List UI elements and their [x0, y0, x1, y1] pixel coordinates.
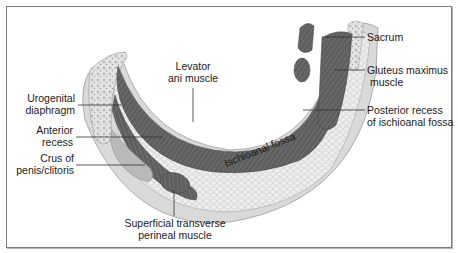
label-posterior-recess: Posterior recess of ischioanal fossa: [367, 104, 453, 128]
label-anterior-recess: Anterior recess: [19, 124, 73, 148]
label-urogenital-diaphragm: Urogenital diaphragm: [19, 92, 75, 116]
coccygeal-muscle-mid: [294, 58, 310, 82]
coccygeal-muscle-top: [298, 23, 314, 52]
label-gluteus-maximus: Gluteus maximus muscle: [367, 64, 448, 88]
label-levator-ani: Levator ani muscle: [168, 60, 218, 84]
label-superficial-transverse: Superficial transverse perineal muscle: [120, 217, 230, 241]
label-crus: Crus of penis/clitoris: [4, 152, 74, 176]
label-sacrum: Sacrum: [367, 31, 403, 43]
